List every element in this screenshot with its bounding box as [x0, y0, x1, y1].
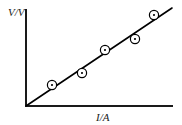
data-point-marker [149, 10, 158, 19]
data-point-marker [77, 68, 86, 77]
data-point-center-dot [153, 14, 155, 16]
y-axis-label: V/V [8, 6, 26, 18]
data-point-center-dot [51, 84, 53, 86]
graph-canvas: V/V I/A [0, 0, 182, 125]
data-point-center-dot [134, 38, 136, 40]
data-point-marker [47, 80, 56, 89]
voltage-current-graph-figure: V/V I/A [0, 0, 182, 125]
best-fit-line-group [26, 8, 172, 106]
data-points-group [47, 10, 158, 89]
data-point-marker [130, 34, 139, 43]
data-point-center-dot [104, 49, 106, 51]
data-point-center-dot [81, 72, 83, 74]
data-point-marker [100, 45, 109, 54]
best-fit-line [26, 8, 172, 106]
x-axis-label: I/A [95, 111, 110, 123]
